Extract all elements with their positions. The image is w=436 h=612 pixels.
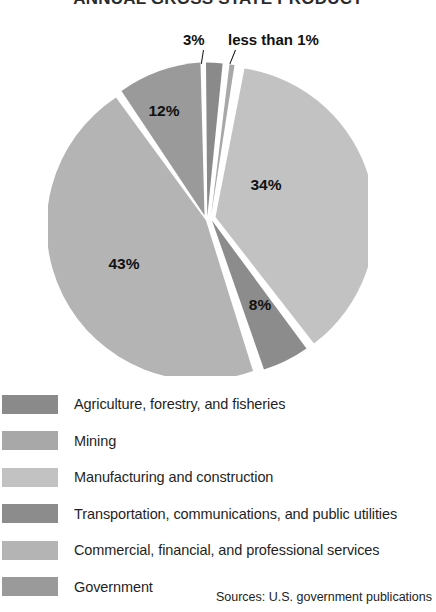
pie-slice-manufacturing — [216, 69, 369, 344]
slice-value-transportation: 8% — [249, 296, 272, 313]
legend-item-mining: Mining — [0, 423, 436, 460]
legend-swatch-government — [2, 577, 58, 596]
legend-swatch-transportation — [2, 504, 58, 523]
legend-swatch-agriculture — [2, 395, 58, 414]
callout-label-3-percent: 3% — [183, 31, 205, 48]
legend-swatch-mining — [2, 431, 58, 450]
legend-label-commercial: Commercial, financial, and professional … — [74, 542, 379, 558]
source-note: Sources: U.S. government publications — [216, 590, 432, 604]
legend-label-manufacturing: Manufacturing and construction — [74, 469, 273, 485]
legend-swatch-commercial — [2, 541, 58, 560]
legend-label-mining: Mining — [74, 433, 116, 449]
slice-value-manufacturing: 34% — [250, 176, 281, 193]
slice-value-government: 12% — [148, 102, 179, 119]
legend-label-agriculture: Agriculture, forestry, and fisheries — [74, 396, 285, 412]
legend-swatch-manufacturing — [2, 468, 58, 487]
legend: Agriculture, forestry, and fisheries Min… — [0, 386, 436, 605]
page-title: ANNUAL GROSS STATE PRODUCT — [0, 0, 436, 9]
legend-item-transportation: Transportation, communications, and publ… — [0, 496, 436, 533]
legend-item-commercial: Commercial, financial, and professional … — [0, 532, 436, 569]
legend-item-manufacturing: Manufacturing and construction — [0, 459, 436, 496]
pie-svg: 34% 8% 43% 12% — [48, 56, 368, 376]
legend-label-transportation: Transportation, communications, and publ… — [74, 506, 397, 522]
pie-chart: 34% 8% 43% 12% — [48, 56, 368, 376]
legend-label-government: Government — [74, 579, 153, 595]
callout-label-less-than-1-percent: less than 1% — [228, 31, 319, 48]
legend-item-agriculture: Agriculture, forestry, and fisheries — [0, 386, 436, 423]
slice-value-commercial: 43% — [108, 255, 139, 272]
